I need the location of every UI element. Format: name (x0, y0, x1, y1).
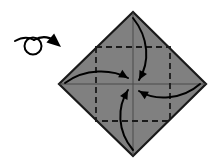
turn-over-arrow-head-icon (46, 33, 61, 47)
turn-over-symbol (15, 33, 61, 54)
origami-diagram-canvas (0, 0, 213, 167)
origami-figure (0, 0, 213, 167)
center-cross-creases (59, 12, 206, 156)
